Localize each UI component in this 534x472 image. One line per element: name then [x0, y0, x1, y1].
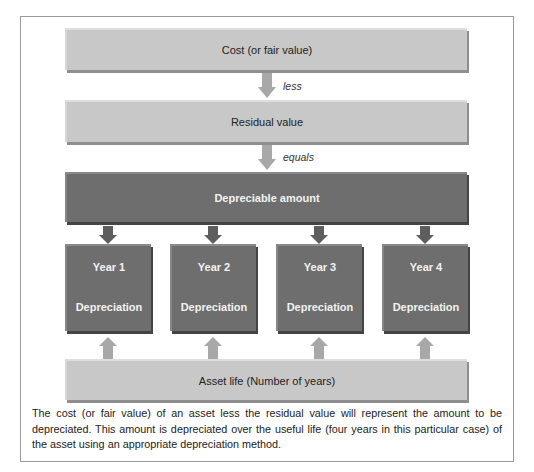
- down-arrow-icon: [258, 73, 276, 99]
- year-title: Year 2: [198, 261, 230, 273]
- year-depreciation-label: Depreciation: [287, 301, 354, 313]
- year-title: Year 4: [410, 261, 442, 273]
- year-4-box: Year 4 Depreciation: [382, 244, 468, 331]
- asset-life-box: Asset life (Number of years): [65, 359, 467, 400]
- residual-value-label: Residual value: [231, 116, 303, 128]
- figure-caption: The cost (or fair value) of an asset les…: [32, 406, 502, 453]
- asset-life-label: Asset life (Number of years): [199, 375, 335, 387]
- year-2-box: Year 2 Depreciation: [170, 244, 256, 331]
- up-arrow-icon: [204, 337, 222, 359]
- down-arrow-icon: [310, 226, 328, 244]
- up-arrow-icon: [416, 337, 434, 359]
- cost-box: Cost (or fair value): [65, 28, 467, 70]
- year-1-box: Year 1 Depreciation: [65, 244, 151, 331]
- year-depreciation-label: Depreciation: [181, 301, 248, 313]
- equals-connector: equals: [283, 151, 314, 163]
- residual-value-box: Residual value: [65, 100, 467, 142]
- year-title: Year 3: [304, 261, 336, 273]
- up-arrow-icon: [310, 337, 328, 359]
- depreciable-amount-label: Depreciable amount: [214, 192, 319, 204]
- year-3-box: Year 3 Depreciation: [276, 244, 362, 331]
- up-arrow-icon: [99, 337, 117, 359]
- year-depreciation-label: Depreciation: [393, 301, 460, 313]
- year-title: Year 1: [93, 261, 125, 273]
- less-connector: less: [283, 80, 302, 92]
- cost-label: Cost (or fair value): [222, 44, 312, 56]
- down-arrow-icon: [258, 145, 276, 171]
- depreciable-amount-box: Depreciable amount: [65, 172, 467, 222]
- down-arrow-icon: [416, 226, 434, 244]
- down-arrow-icon: [99, 226, 117, 244]
- down-arrow-icon: [204, 226, 222, 244]
- year-depreciation-label: Depreciation: [76, 301, 143, 313]
